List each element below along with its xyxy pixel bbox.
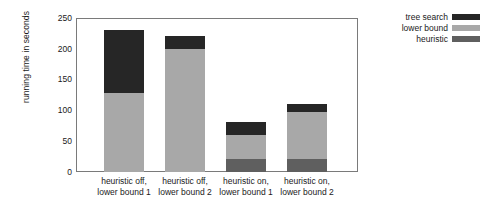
bar-segment-lower-bound-1 xyxy=(104,93,144,172)
bar-segment-tree-search-2 xyxy=(165,36,205,49)
x-axis-label-4-line2: lower bound 2 xyxy=(259,187,355,198)
y-tick-label-250: 250 xyxy=(38,13,72,23)
x-axis-label-4: heuristic on, lower bound 2 xyxy=(259,176,355,197)
bar-group-3[interactable] xyxy=(226,18,266,172)
y-tick-label-200: 200 xyxy=(38,44,72,54)
y-tick-label-50: 50 xyxy=(38,136,72,146)
y-tick-label-150: 150 xyxy=(38,74,72,84)
bar-group-2[interactable] xyxy=(165,18,205,172)
x-axis-label-4-line1: heuristic on, xyxy=(259,176,355,187)
bar-group-4[interactable] xyxy=(287,18,327,172)
bar-segment-tree-search-1 xyxy=(104,30,144,92)
legend-item-lower-bound[interactable]: lower bound xyxy=(380,23,480,33)
chart-legend: tree search lower bound heuristic xyxy=(380,12,480,45)
bar-segment-lower-bound-2 xyxy=(165,49,205,172)
bar-segment-heuristic-3 xyxy=(226,159,266,172)
bar-segment-tree-search-3 xyxy=(226,122,266,135)
legend-swatch-tree-search xyxy=(452,14,480,20)
bar-group-1[interactable] xyxy=(104,18,144,172)
legend-label-tree-search: tree search xyxy=(405,12,448,22)
legend-swatch-heuristic xyxy=(452,36,480,42)
legend-item-tree-search[interactable]: tree search xyxy=(380,12,480,22)
legend-label-lower-bound: lower bound xyxy=(402,23,448,33)
bar-segment-heuristic-4 xyxy=(287,159,327,172)
bar-segment-tree-search-4 xyxy=(287,104,327,112)
chart-figure: running time in seconds 250 200 150 100 … xyxy=(0,0,483,202)
y-tick-label-100: 100 xyxy=(38,105,72,115)
legend-item-heuristic[interactable]: heuristic xyxy=(380,34,480,44)
legend-swatch-lower-bound xyxy=(452,25,480,31)
y-axis-title: running time in seconds xyxy=(21,0,31,127)
y-tick-label-0: 0 xyxy=(38,167,72,177)
bar-segment-lower-bound-4 xyxy=(287,112,327,159)
bar-segment-lower-bound-3 xyxy=(226,135,266,159)
legend-label-heuristic: heuristic xyxy=(416,34,448,44)
